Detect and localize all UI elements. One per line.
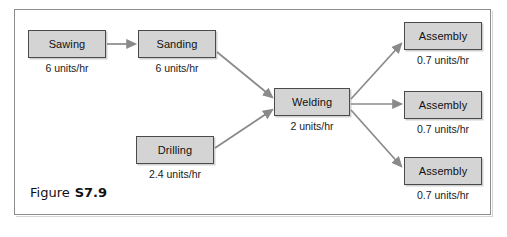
rate-label-assembly-3: 0.7 units/hr xyxy=(404,190,482,201)
process-box-assembly-2[interactable]: Assembly xyxy=(404,91,482,119)
process-box-welding[interactable]: Welding xyxy=(274,88,350,116)
flow-arrow-welding-to-assembly-3 xyxy=(351,110,401,166)
rate-label-assembly-2: 0.7 units/hr xyxy=(404,124,482,135)
caption-number: S7.9 xyxy=(75,185,107,200)
flow-arrow-welding-to-assembly-1 xyxy=(351,44,401,99)
rate-label-sanding: 6 units/hr xyxy=(138,63,216,74)
caption-label: Figure xyxy=(30,185,70,200)
process-box-label: Assembly xyxy=(419,31,467,42)
rate-label-sawing: 6 units/hr xyxy=(28,63,106,74)
process-box-sanding[interactable]: Sanding xyxy=(138,30,216,58)
flow-arrow-drilling-to-welding xyxy=(215,110,272,148)
process-box-assembly-1[interactable]: Assembly xyxy=(404,22,482,50)
flow-arrow-sanding-to-welding xyxy=(217,52,272,97)
process-box-label: Sawing xyxy=(49,39,86,50)
process-box-drilling[interactable]: Drilling xyxy=(136,136,214,164)
figure-container: Sawing6 units/hrSanding6 units/hrDrillin… xyxy=(0,0,507,237)
process-box-label: Welding xyxy=(292,97,332,108)
process-box-label: Assembly xyxy=(419,166,467,177)
process-box-label: Assembly xyxy=(419,100,467,111)
process-box-assembly-3[interactable]: Assembly xyxy=(404,157,482,185)
rate-label-welding: 2 units/hr xyxy=(274,121,350,132)
figure-caption: FigureS7.9 xyxy=(30,185,107,201)
process-box-label: Drilling xyxy=(158,145,192,156)
rate-label-assembly-1: 0.7 units/hr xyxy=(404,55,482,66)
process-box-sawing[interactable]: Sawing xyxy=(28,30,106,58)
process-box-label: Sanding xyxy=(156,39,197,50)
rate-label-drilling: 2.4 units/hr xyxy=(136,169,214,180)
